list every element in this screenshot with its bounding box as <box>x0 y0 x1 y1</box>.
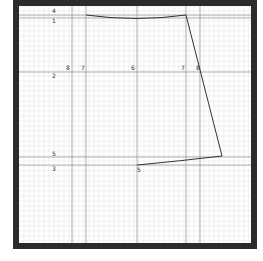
minor-grid <box>19 6 251 243</box>
point-label: 5 <box>52 150 56 157</box>
point-label: 7 <box>81 64 85 71</box>
point-label: 2 <box>52 72 56 79</box>
pattern-diagram: 41876782535 <box>0 0 263 261</box>
point-label: 8 <box>66 64 70 71</box>
point-label: 7 <box>181 64 185 71</box>
point-label: 6 <box>131 64 135 71</box>
frame-border <box>16 3 254 246</box>
point-label: 1 <box>52 17 56 24</box>
point-label: 8 <box>196 64 200 71</box>
point-label: 3 <box>52 165 56 172</box>
point-label: 5 <box>137 166 141 173</box>
point-label: 4 <box>52 7 56 14</box>
